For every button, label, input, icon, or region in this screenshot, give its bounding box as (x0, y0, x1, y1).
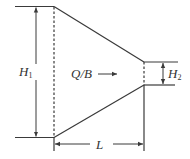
H1-label-main: H (19, 64, 28, 79)
length-label: L (96, 138, 103, 151)
bottom-converging-wall (54, 85, 144, 138)
H2-label: H2 (168, 67, 181, 82)
H2-label-subscript: 2 (177, 73, 181, 82)
flow-label: Q/B (71, 67, 92, 80)
top-converging-wall (54, 7, 144, 63)
H2-label-main: H (168, 66, 177, 81)
H1-label-subscript: 1 (28, 71, 32, 80)
H1-label: H1 (19, 65, 32, 80)
